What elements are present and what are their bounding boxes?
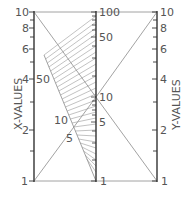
right-label-2: 2 (160, 124, 167, 137)
x-values-title: X-VALUES (12, 78, 25, 130)
right-label-4: 4 (160, 73, 167, 86)
left-axis-ticks (29, 12, 34, 181)
center-label-100: 100 (99, 6, 120, 19)
center-label-1: 1 (100, 175, 107, 188)
left-label-8: 8 (22, 22, 29, 35)
center-axis-labels: 100 50 10 5 1 (99, 6, 120, 188)
curved-scale-labels: 50 10 5 (36, 73, 73, 145)
hatch-lines (44, 16, 96, 172)
left-label-10: 10 (15, 6, 29, 19)
right-label-1: 1 (161, 175, 168, 188)
center-label-10: 10 (99, 91, 113, 104)
right-label-10: 10 (160, 6, 174, 19)
center-label-50: 50 (99, 31, 113, 44)
nomogram-svg: 10 8 6 4 2 1 X-VALUES 100 50 10 5 1 10 8… (0, 0, 185, 198)
curved-label-50: 50 (36, 73, 50, 86)
curved-label-5: 5 (66, 132, 73, 145)
left-label-6: 6 (22, 43, 29, 56)
curved-label-10: 10 (54, 114, 68, 127)
nomogram: 10 8 6 4 2 1 X-VALUES 100 50 10 5 1 10 8… (0, 0, 185, 198)
diagonal-left-bottom-to-center (34, 97, 96, 181)
right-label-8: 8 (160, 22, 167, 35)
center-label-5: 5 (99, 116, 106, 129)
diagonal-center-to-right-top (96, 12, 157, 97)
right-label-6: 6 (160, 43, 167, 56)
right-axis-ticks (152, 12, 157, 181)
y-values-title: Y-VALUES (170, 79, 183, 131)
left-label-1: 1 (21, 175, 28, 188)
